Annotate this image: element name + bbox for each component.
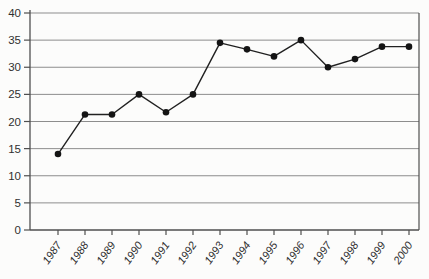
data-point-1991 xyxy=(163,109,170,116)
x-tick-label-1999: 1999 xyxy=(364,239,388,266)
chart-figure: 0510152025303540198719881989199019911992… xyxy=(0,0,429,279)
x-tick-label-1998: 1998 xyxy=(337,239,361,267)
data-point-1989 xyxy=(109,111,116,118)
y-tick-label-40: 40 xyxy=(8,7,21,19)
line-chart: 0510152025303540198719881989199019911992… xyxy=(0,0,429,279)
y-tick-label-0: 0 xyxy=(15,224,21,236)
data-point-2000 xyxy=(406,43,413,50)
data-point-1988 xyxy=(82,111,89,118)
data-point-1995 xyxy=(271,53,278,60)
data-point-1999 xyxy=(379,43,386,50)
x-tick-label-2000: 2000 xyxy=(390,239,415,267)
data-point-1990 xyxy=(136,91,143,98)
x-tick-label-1997: 1997 xyxy=(310,239,334,267)
y-tick-label-10: 10 xyxy=(8,170,21,182)
x-tick-label-1992: 1992 xyxy=(175,239,199,266)
data-point-1993 xyxy=(217,40,224,47)
axes xyxy=(30,10,419,230)
data-point-1994 xyxy=(244,46,251,53)
x-tick-label-1993: 1993 xyxy=(202,239,226,267)
data-point-1987 xyxy=(55,151,62,158)
x-axis-ticks xyxy=(58,230,409,235)
data-point-1996 xyxy=(298,37,305,44)
y-axis-ticks xyxy=(24,13,30,230)
y-tick-label-25: 25 xyxy=(8,88,21,100)
x-axis-labels: 1987198819891990199119921993199419951996… xyxy=(40,239,415,267)
x-tick-label-1996: 1996 xyxy=(283,239,307,267)
x-tick-label-1989: 1989 xyxy=(94,239,118,266)
x-tick-label-1991: 1991 xyxy=(148,239,172,266)
x-tick-label-1994: 1994 xyxy=(229,239,253,266)
y-tick-label-15: 15 xyxy=(8,143,21,155)
y-tick-label-35: 35 xyxy=(8,34,21,46)
data-point-1997 xyxy=(325,64,332,71)
x-tick-label-1990: 1990 xyxy=(121,239,145,267)
y-tick-label-5: 5 xyxy=(15,197,21,209)
gridlines xyxy=(30,13,419,203)
data-point-1992 xyxy=(190,91,197,98)
data-point-1998 xyxy=(352,56,359,63)
y-tick-label-20: 20 xyxy=(8,116,21,128)
x-tick-label-1988: 1988 xyxy=(67,239,91,267)
x-tick-label-1995: 1995 xyxy=(256,239,280,267)
x-tick-label-1987: 1987 xyxy=(40,239,64,267)
y-axis-labels: 0510152025303540 xyxy=(8,7,21,236)
series xyxy=(55,37,413,158)
y-tick-label-30: 30 xyxy=(8,61,21,73)
